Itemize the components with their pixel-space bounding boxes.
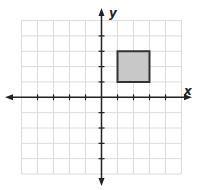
square-shape bbox=[118, 51, 150, 82]
y-axis-label: y bbox=[109, 6, 118, 20]
x-axis-left-arrow-icon bbox=[5, 94, 13, 100]
axes bbox=[5, 8, 192, 186]
shapes bbox=[118, 51, 150, 82]
coordinate-plane: x y bbox=[0, 0, 201, 190]
y-axis-up-arrow-icon bbox=[99, 8, 105, 16]
y-axis-down-arrow-icon bbox=[99, 178, 105, 186]
x-axis-label: x bbox=[183, 84, 193, 98]
